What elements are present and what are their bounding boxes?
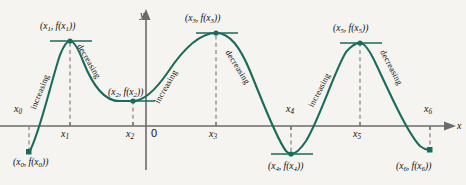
figure-container: y x 0 x0 x1 x2 x3 x4 x5 x6 (x0, f(x0)) (… [0,0,466,185]
marker-x1 [67,38,72,43]
y-axis-label: y [140,10,144,20]
marker-x3 [213,30,218,35]
point-label-x2: (x2, f(x2)) [108,88,143,98]
tick-label-x1: x1 [61,129,69,141]
tick-label-x0: x0 [14,104,22,116]
point-label-x5: (x5, f(x5)) [333,24,368,34]
point-label-x4: (x4, f(x4)) [268,162,303,172]
tick-label-x6: x6 [424,104,432,116]
point-label-x1: (x1, f(x1)) [40,22,75,32]
tick-label-x2: x2 [126,129,134,141]
x-axis-label: x [457,121,461,131]
origin-label: 0 [151,128,157,139]
x-axis-arrowhead [444,122,456,131]
marker-x5 [357,40,362,45]
tick-label-x5: x5 [353,129,361,141]
tick-label-x4: x4 [286,104,294,116]
marker-x0 [26,149,32,155]
marker-x6 [427,147,433,153]
marker-x4 [288,151,293,156]
point-label-x3: (x3, f(x3)) [185,14,220,24]
point-label-x0: (x0, f(x0)) [13,158,48,168]
marker-x2 [130,98,135,103]
tick-label-x3: x3 [209,129,217,141]
point-label-x6: (x6, f(x6)) [396,162,431,172]
